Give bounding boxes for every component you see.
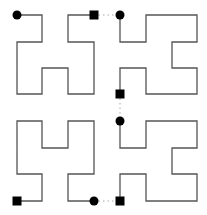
curve-segment-q3: [17, 121, 94, 201]
q3-start-square-marker: [13, 197, 22, 206]
curve-segments: [17, 15, 197, 201]
curve-segment-q2: [120, 15, 197, 94]
curve-segment-q4: [120, 121, 197, 201]
q4-end-square-marker: [116, 197, 125, 206]
q1-end-square-marker: [90, 11, 99, 20]
curve-segment-q1: [17, 15, 94, 94]
q1-start-circle-marker: [13, 11, 22, 20]
q2-start-circle-marker: [116, 11, 125, 20]
q3-end-circle-marker: [90, 197, 99, 206]
dotted-connectors: [94, 15, 120, 201]
q2-end-square-marker: [116, 90, 125, 99]
hilbert-curve-diagram: [0, 0, 207, 215]
q4-start-circle-marker: [116, 117, 125, 126]
